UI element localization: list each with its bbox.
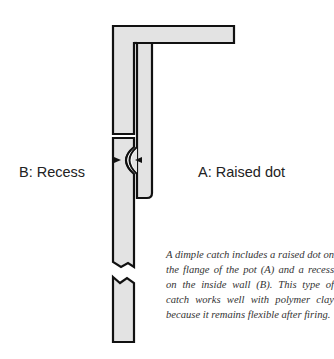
figure-caption: A dimple catch includes a raised dot on … bbox=[166, 247, 334, 322]
dimple-catch-diagram: B: Recess A: Raised dot A dimple catch i… bbox=[0, 0, 334, 359]
wall-bottom-segment bbox=[113, 277, 134, 342]
recess-label: B: Recess bbox=[19, 164, 85, 180]
pot-flange bbox=[137, 43, 152, 198]
lid-wall-upper bbox=[113, 26, 234, 134]
raised-dot-label: A: Raised dot bbox=[198, 164, 285, 180]
